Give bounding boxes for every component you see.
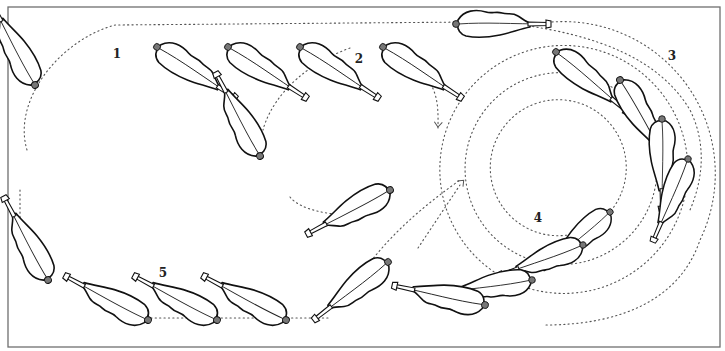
stage-label-4: 4 xyxy=(534,211,542,225)
feather-icon xyxy=(0,0,48,94)
feather-icon xyxy=(300,177,399,247)
dotted-path-crossing xyxy=(418,185,460,248)
feather-icon xyxy=(453,11,551,38)
stage-label-5: 5 xyxy=(159,266,167,280)
feather-icon xyxy=(305,250,399,332)
feather-icon xyxy=(58,264,157,334)
feather-icon xyxy=(373,34,470,110)
arrow-crossing-icon xyxy=(457,177,466,186)
stage-label-1: 1 xyxy=(113,47,121,61)
stage-label-2: 2 xyxy=(355,52,363,66)
stage-label-3: 3 xyxy=(668,49,676,63)
feather-icon xyxy=(0,190,61,289)
feather-icon xyxy=(389,272,491,318)
feather-motion-diagram: 12345 xyxy=(0,0,725,351)
